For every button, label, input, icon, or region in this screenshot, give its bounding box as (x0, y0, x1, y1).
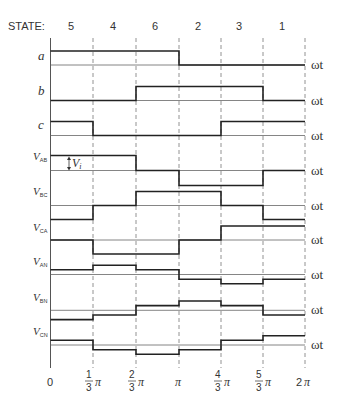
trace-label: VBC (33, 185, 47, 198)
six-step-inverter-waveform-diagram: STATE: 5 4 6 2 3 1 aωtbωtcωtVABωtVBCωtVC… (0, 0, 345, 412)
tick-two-pi: 2 π (296, 375, 311, 389)
waveform-path (51, 122, 306, 136)
svg-text:3: 3 (256, 382, 262, 393)
state-number: 2 (195, 20, 201, 32)
trace-vbn: VBNωt (33, 291, 324, 320)
omega-t-label: ωt (311, 267, 324, 282)
trace-c: cωt (38, 117, 324, 143)
svg-text:3: 3 (129, 382, 135, 393)
svg-text:3: 3 (86, 382, 92, 393)
state-number: 5 (68, 20, 74, 32)
trace-vcn: VCNωt (33, 325, 324, 354)
tick-two-thirds-pi: 2 3 π (128, 369, 145, 393)
svg-text:π: π (138, 375, 145, 389)
tick-four-thirds-pi: 4 3 π (214, 369, 231, 393)
vi-label: Vi (72, 156, 82, 171)
svg-text:π: π (95, 375, 102, 389)
trace-label: b (38, 83, 45, 98)
state-number: 1 (279, 20, 285, 32)
tick-pi: π (175, 375, 182, 389)
svg-text:π: π (224, 375, 231, 389)
tick-0: 0 (47, 376, 53, 388)
trace-b: bωt (38, 83, 324, 108)
omega-t-label: ωt (311, 163, 324, 178)
svg-text:π: π (304, 375, 311, 389)
state-number: 6 (152, 20, 158, 32)
trace-vbc: VBCωt (33, 185, 324, 220)
svg-text:4: 4 (215, 369, 221, 380)
trace-label: VBN (33, 291, 47, 304)
waveforms: aωtbωtcωtVABωtVBCωtVCAωtVANωtVBNωtVCNωt (33, 48, 324, 354)
trace-label: c (38, 117, 44, 132)
omega-t-label: ωt (311, 93, 324, 108)
svg-text:π: π (265, 375, 272, 389)
tick-five-thirds-pi: 5 3 π (255, 369, 272, 393)
svg-text:2: 2 (296, 376, 302, 388)
omega-t-label: ωt (311, 232, 324, 247)
omega-t-label: ωt (311, 198, 324, 213)
waveform-path (51, 87, 306, 101)
arrow-up-icon (67, 157, 71, 161)
trace-label: VCA (33, 221, 48, 234)
waveform-path (51, 51, 306, 65)
trace-label: VAB (33, 150, 47, 163)
omega-t-label: ωt (311, 302, 324, 317)
x-axis-ticks: 0 1 3 π 2 3 π π 4 3 π 5 3 π 2 π (47, 369, 311, 393)
omega-t-label: ωt (311, 337, 324, 352)
trace-label: VAN (33, 255, 47, 268)
omega-t-label: ωt (311, 57, 324, 72)
svg-text:5: 5 (256, 369, 262, 380)
tick-one-third-pi: 1 3 π (85, 369, 102, 393)
svg-text:3: 3 (215, 382, 221, 393)
trace-vca: VCAωt (33, 221, 324, 254)
trace-van: VANωt (33, 255, 324, 284)
state-number: 3 (236, 20, 242, 32)
trace-a: aωt (38, 48, 324, 72)
state-numbers: 5 4 6 2 3 1 (68, 20, 285, 32)
vi-annotation: Vi (67, 156, 82, 171)
omega-t-label: ωt (311, 128, 324, 143)
svg-text:2: 2 (129, 369, 135, 380)
svg-text:1: 1 (86, 369, 92, 380)
phase-dividers (93, 38, 305, 368)
trace-label: VCN (33, 325, 48, 338)
trace-label: a (38, 48, 45, 63)
state-number: 4 (110, 20, 116, 32)
arrow-down-icon (67, 167, 71, 171)
state-header-label: STATE: (8, 20, 45, 32)
